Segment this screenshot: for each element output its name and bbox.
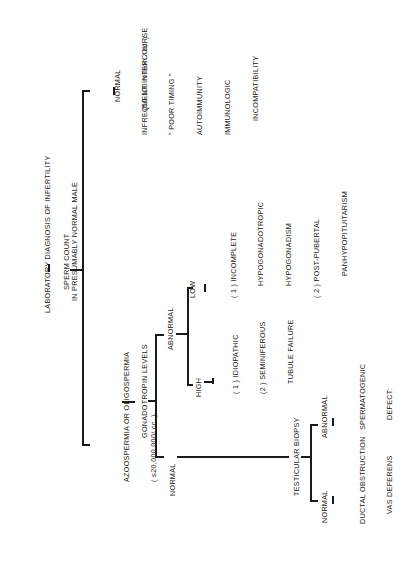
cause-item: SPERMATOGENIC	[358, 334, 367, 430]
connector-azoo-gonado	[122, 401, 135, 403]
branch-high	[187, 384, 193, 386]
cause-item: AUTOIMMUNITY	[195, 28, 204, 136]
cause-item: VAS DEFERENS	[385, 432, 394, 524]
connector-title-spermcount	[48, 264, 50, 272]
normal-count-causes: INFREQUENT INTERCOURSE " POOR TIMING " A…	[121, 28, 279, 136]
branch-biopsy-normal	[310, 500, 318, 502]
trunk-gonadotropin	[155, 334, 157, 458]
node-high: HIGH	[194, 378, 203, 397]
cause-item: HYPOGONADOTROPIC	[256, 191, 265, 298]
node-sperm-count: SPERM COUNT	[62, 234, 71, 290]
node-biopsy-abnormal: ABNORMAL	[320, 395, 329, 438]
biopsy-normal-causes: DUCTAL OBSTRUCTION : VAS DEFERENS (VASEC…	[339, 432, 405, 524]
title-line-2: IN PRESUMABLY NORMAL MALE	[70, 155, 79, 313]
cause-item: DEFECT:	[385, 334, 394, 430]
trunk-biopsy	[310, 424, 312, 502]
branch-biopsy-abnormal	[310, 424, 318, 426]
cause-item: TUBULE FAILURE	[286, 319, 295, 394]
trunk-sperm-count	[82, 90, 84, 446]
azoospermia-label: AZOOSPERMIA OR OLIGOSPERMIA	[122, 352, 131, 482]
connector-normal-causes	[113, 87, 115, 95]
node-gonado-normal: NORMAL	[168, 463, 177, 496]
connector-biopsy-abnormal-causes	[332, 418, 334, 426]
cause-item: INCOMPATIBILITY	[251, 28, 260, 136]
branch-normal-count	[82, 90, 90, 92]
connector-biopsy-normal-causes	[332, 496, 334, 504]
node-gonadotropin-levels: GONADOTROPIN LEVELS	[140, 344, 149, 438]
branch-gonado-normal	[155, 456, 164, 458]
biopsy-abnormal-causes: SPERMATOGENIC DEFECT: GERMINAL CELL ARRE…	[339, 334, 405, 430]
connector-low-causes	[204, 284, 206, 292]
trunk-low-high	[187, 287, 189, 385]
cause-item: ( 1 ) INCOMPLETE	[229, 191, 238, 298]
cause-item: INFREQUENT INTERCOURSE	[140, 28, 149, 136]
title-line-1: LABORATORY DIAGNOSIS OF INFERTILITY	[43, 155, 52, 313]
connector-normal-biopsy	[177, 456, 289, 458]
high-causes: ( 1 ) IDIOPATHIC (2 ) SEMINIFEROUS TUBUL…	[212, 319, 314, 394]
cause-item: IMMUNOLOGIC	[223, 28, 232, 136]
cause-item: " POOR TIMING "	[167, 28, 176, 136]
low-causes: ( 1 ) INCOMPLETE HYPOGONADOTROPIC HYPOGO…	[210, 191, 368, 298]
cause-item: ( 1 ) IDIOPATHIC	[231, 319, 240, 394]
branch-gonado-abnormal	[155, 334, 164, 336]
cause-item: DUCTAL OBSTRUCTION :	[358, 432, 367, 524]
cause-item: (2 ) SEMINIFEROUS	[258, 319, 267, 394]
cause-item: HYPOGONADISM	[284, 191, 293, 298]
cause-item: ( 2 ) POST-PUBERTAL	[312, 191, 321, 298]
branch-low-count	[82, 444, 90, 446]
cause-item: PANHYPOPITUITARISM	[340, 191, 349, 298]
node-testicular-biopsy: TESTICULAR BIOPSY	[292, 417, 301, 496]
node-gonado-abnormal: ABNORMAL	[166, 307, 175, 350]
node-biopsy-normal: NORMAL	[320, 490, 329, 523]
node-low: LOW	[188, 281, 197, 298]
